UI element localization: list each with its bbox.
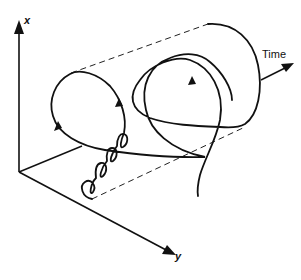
x-axis-arrow-icon [14, 20, 24, 34]
trajectory-arrow-icon [188, 76, 196, 85]
trajectory-main [51, 24, 260, 199]
y-axis-arrow-icon [162, 245, 176, 255]
y-axis [19, 172, 176, 255]
time-arrow [261, 63, 294, 80]
helix-diagram: x y Time [0, 0, 301, 280]
trajectory-arrow-icon [115, 98, 123, 107]
time-label: Time [262, 48, 286, 60]
y-axis-label: y [174, 250, 182, 262]
x-axis [14, 20, 24, 172]
x-axis-label: x [23, 14, 31, 26]
base-line [19, 146, 82, 172]
time-arrow-icon [281, 63, 294, 72]
envelope-dashed-lines [71, 24, 245, 199]
